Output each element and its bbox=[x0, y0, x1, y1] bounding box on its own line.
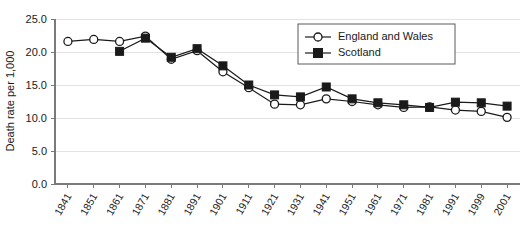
data-point-square bbox=[167, 53, 175, 61]
line-chart: 25.0 20.0 15.0 10.0 5.0 0.0 Death rate p… bbox=[0, 0, 525, 244]
x-tick-labels: 1841185118611871188118911901191119211931… bbox=[52, 191, 513, 217]
y-tick-label: 25.0 bbox=[26, 13, 47, 25]
data-point-circle bbox=[503, 113, 511, 121]
data-point-square bbox=[193, 45, 201, 53]
data-point-square bbox=[322, 83, 330, 91]
data-point-square bbox=[271, 91, 279, 99]
y-tick-label: 10.0 bbox=[26, 112, 47, 124]
data-point-square bbox=[348, 95, 356, 103]
data-point-circle bbox=[451, 106, 459, 114]
data-point-square bbox=[219, 62, 227, 70]
x-tick-label: 1961 bbox=[362, 191, 384, 217]
data-point-circle bbox=[477, 107, 485, 115]
x-tick-label: 1861 bbox=[103, 191, 125, 217]
data-point-circle bbox=[322, 95, 330, 103]
x-tick-label: 1881 bbox=[155, 191, 177, 217]
legend-label: Scotland bbox=[338, 46, 381, 58]
x-tick-label: 2001 bbox=[491, 191, 513, 217]
x-tick-label: 1911 bbox=[233, 191, 255, 217]
x-tick-label: 1941 bbox=[310, 191, 332, 217]
data-point-circle bbox=[90, 35, 98, 43]
x-tick-label: 1981 bbox=[413, 191, 435, 217]
x-tick-label: 1841 bbox=[52, 191, 74, 217]
x-tick-label: 1951 bbox=[336, 191, 358, 217]
data-point-square bbox=[477, 99, 485, 107]
y-tick-label: 15.0 bbox=[26, 79, 47, 91]
open-circle-icon bbox=[314, 33, 322, 41]
data-point-square bbox=[451, 98, 459, 106]
y-tick-label: 5.0 bbox=[32, 145, 47, 157]
data-point-square bbox=[374, 99, 382, 107]
y-tick-label: 20.0 bbox=[26, 46, 47, 58]
x-tick-label: 1921 bbox=[258, 191, 280, 217]
x-tick-label: 1851 bbox=[77, 191, 99, 217]
y-tick-labels: 25.0 20.0 15.0 10.0 5.0 0.0 bbox=[26, 13, 47, 190]
data-point-square bbox=[400, 101, 408, 109]
data-point-square bbox=[296, 93, 304, 101]
data-point-circle bbox=[64, 37, 72, 45]
y-axis-title: Death rate per 1,000 bbox=[4, 51, 16, 152]
x-tick-label: 1891 bbox=[181, 191, 203, 217]
x-tick-label: 1871 bbox=[129, 191, 151, 217]
data-point-square bbox=[141, 34, 149, 42]
y-tick-marks bbox=[51, 19, 55, 184]
x-tick-marks bbox=[68, 184, 507, 188]
legend-label: England and Wales bbox=[338, 30, 433, 42]
x-tick-label: 1999 bbox=[465, 191, 487, 217]
x-tick-label: 1971 bbox=[387, 191, 409, 217]
x-tick-label: 1931 bbox=[284, 191, 306, 217]
chart-container: 25.0 20.0 15.0 10.0 5.0 0.0 Death rate p… bbox=[0, 0, 525, 244]
data-point-circle bbox=[116, 37, 124, 45]
data-point-circle bbox=[296, 101, 304, 109]
data-point-square bbox=[426, 103, 434, 111]
data-point-square bbox=[503, 102, 511, 110]
y-tick-label: 0.0 bbox=[32, 178, 47, 190]
data-point-square bbox=[116, 47, 124, 55]
x-tick-label: 1991 bbox=[439, 191, 461, 217]
data-point-square bbox=[245, 81, 253, 89]
chart-legend[interactable]: England and Wales Scotland bbox=[298, 24, 455, 64]
data-point-circle bbox=[271, 100, 279, 108]
x-tick-label: 1901 bbox=[207, 191, 229, 217]
filled-square-icon bbox=[314, 49, 323, 58]
